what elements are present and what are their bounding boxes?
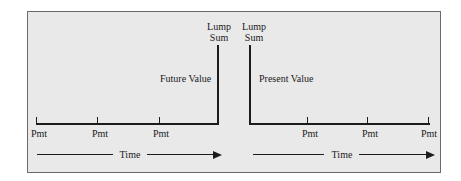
lump-sum-label-line1: Lump	[242, 22, 266, 32]
payment-label: Pmt	[362, 129, 378, 139]
time-arrow-line	[253, 154, 324, 155]
future-value-label: Future Value	[160, 74, 211, 84]
lump-sum-label-line1: Lump	[207, 22, 231, 32]
payment-label: Pmt	[421, 129, 437, 139]
present-value-label: Present Value	[259, 74, 314, 84]
timeline-baseline	[249, 123, 430, 125]
time-axis-label: Time	[120, 150, 141, 160]
payment-label: Pmt	[302, 129, 318, 139]
timeline-baseline	[36, 123, 219, 125]
payment-tick	[159, 117, 160, 124]
payment-tick	[307, 117, 308, 124]
payment-tick	[367, 117, 368, 124]
payment-tick	[97, 117, 98, 124]
payment-label: Pmt	[92, 129, 108, 139]
time-axis-label: Time	[332, 150, 353, 160]
time-arrow-line	[37, 154, 113, 155]
payment-label: Pmt	[31, 129, 47, 139]
payment-label: Pmt	[153, 129, 169, 139]
lump-sum-label-line2: Sum	[210, 33, 228, 43]
arrowhead-icon	[426, 151, 435, 159]
lump-sum-vertical-line	[217, 45, 219, 125]
lump-sum-label-line2: Sum	[245, 33, 263, 43]
arrowhead-icon	[213, 151, 222, 159]
diagram-frame	[27, 11, 441, 173]
payment-tick	[428, 117, 429, 124]
payment-tick	[36, 117, 37, 124]
time-arrow-line	[147, 154, 213, 155]
lump-sum-vertical-line	[249, 45, 251, 125]
time-arrow-line	[359, 154, 426, 155]
